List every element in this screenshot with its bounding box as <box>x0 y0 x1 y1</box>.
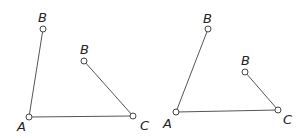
point-C <box>275 107 281 113</box>
point-B-top <box>40 26 46 32</box>
label-C: C <box>283 112 293 127</box>
point-C <box>130 113 136 119</box>
point-B-top <box>205 26 211 32</box>
point-A <box>26 114 32 120</box>
segment-BC <box>84 61 133 116</box>
label-B-top: B <box>38 10 47 25</box>
segment-AC <box>176 110 278 112</box>
figure-right: B A C B <box>162 11 293 131</box>
label-B-inner: B <box>241 53 250 68</box>
point-A <box>173 109 179 115</box>
segment-AB <box>176 29 208 112</box>
point-B-inner <box>81 58 87 64</box>
point-B-inner <box>242 69 248 75</box>
label-B-inner: B <box>80 42 89 57</box>
label-A: A <box>162 116 172 131</box>
segment-AC <box>29 116 133 117</box>
label-A: A <box>16 119 26 134</box>
segment-BC <box>245 72 278 110</box>
figure-left: B A C B <box>16 10 150 134</box>
diagram-canvas: B A C B B A C B <box>0 0 305 138</box>
segment-AB <box>29 29 43 117</box>
label-C: C <box>140 118 150 133</box>
label-B-top: B <box>203 11 212 26</box>
